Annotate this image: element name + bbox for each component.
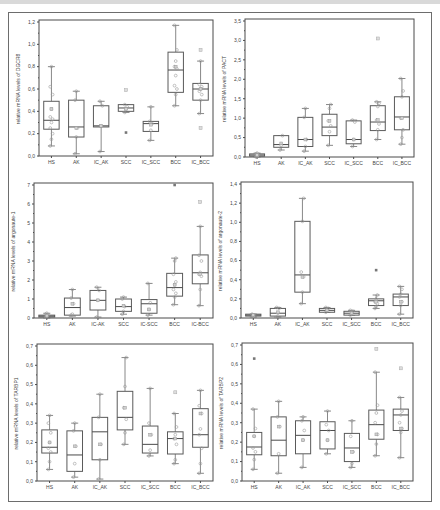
- y-tick-label: 0,6: [231, 361, 238, 367]
- x-category-label: HS: [251, 484, 259, 490]
- y-axis-label: relative mRNA levels of DGCR8: [15, 53, 21, 124]
- x-category-label: BCC: [373, 160, 384, 166]
- box-SCC: SCC: [320, 410, 335, 490]
- y-tick-label: 7: [27, 182, 30, 188]
- y-axis-label: relative mRNA levels of PACT: [221, 56, 227, 122]
- y-tick-label: 5: [27, 220, 30, 226]
- y-tick-label: 3,0: [234, 37, 241, 43]
- y-tick-label: 0,4: [231, 400, 238, 406]
- y-axis-label: relative mRNA levels of TARBP1: [13, 377, 19, 449]
- box-SCC: SCC: [319, 306, 334, 327]
- y-tick-label: 1,0: [234, 115, 241, 121]
- x-category-label: SCC: [121, 159, 132, 165]
- x-category-label: HS: [48, 159, 56, 165]
- y-tick-label: 0,7: [231, 342, 238, 348]
- x-category-label: IC_BCC: [191, 484, 210, 490]
- y-tick-label: 0,3: [231, 420, 238, 426]
- box-BCC: BCC: [168, 24, 183, 165]
- box-plot-figure: 0,00,20,40,60,81,01,2relative mRNA level…: [0, 0, 440, 510]
- panel-dgcr8: 0,00,20,40,60,81,01,2relative mRNA level…: [15, 19, 213, 165]
- x-category-label: IC_AK: [93, 484, 108, 490]
- y-tick-label: 0,4: [28, 108, 35, 114]
- y-tick-label: 0,0: [234, 154, 241, 160]
- y-tick-label: 0,5: [231, 381, 238, 387]
- x-category-label: BCC: [169, 321, 180, 327]
- y-tick-label: 0,0: [230, 315, 237, 321]
- box-BCC: BCC: [167, 391, 183, 490]
- box-IC_AK: IC_AK: [295, 415, 310, 490]
- box-IC_SCC: IC_SCC: [344, 119, 363, 166]
- y-tick-label: 4: [27, 239, 30, 245]
- panel-argonaute1: 01234567relative mRNA levels of argonaut…: [10, 182, 213, 327]
- x-category-label: IC_AK: [94, 159, 109, 165]
- x-category-label: SCC: [324, 160, 335, 166]
- box-IC-BCC: IC-BCC: [192, 201, 210, 327]
- x-category-label: BCC: [371, 321, 382, 327]
- y-tick-label: 1,2: [230, 200, 237, 206]
- box-IC_BCC: IC_BCC: [191, 48, 210, 165]
- box-AK: AK: [270, 306, 285, 327]
- box-HS: HS: [42, 414, 58, 490]
- x-category-label: BCC: [371, 484, 382, 490]
- x-category-label: AK: [69, 321, 76, 327]
- x-category-label: IC_BCC: [191, 159, 210, 165]
- panel-pact: 0,00,51,01,52,02,53,03,5relative mRNA le…: [221, 18, 414, 166]
- y-tick-label: 2: [27, 277, 30, 283]
- x-category-label: HS: [46, 484, 54, 490]
- box-AK: AK: [69, 90, 84, 165]
- box-IC_BCC: IC_BCC: [392, 285, 411, 327]
- x-category-label: SCC: [322, 484, 333, 490]
- x-category-label: IC_BCC: [393, 160, 412, 166]
- x-category-label: IC_SCC: [343, 484, 362, 490]
- y-tick-label: 0,2: [26, 439, 33, 445]
- x-category-label: HS: [250, 321, 258, 327]
- box-IC_AK: IC_AK: [295, 197, 311, 327]
- x-category-label: IC-BCC: [192, 321, 210, 327]
- x-category-label: BCC: [170, 484, 181, 490]
- box-SCC: SCC: [116, 296, 132, 327]
- box-BCC: BCC: [370, 37, 385, 166]
- box-IC_BCC: IC_BCC: [191, 389, 210, 490]
- y-tick-label: 0,2: [230, 296, 237, 302]
- panel-tarbp2: 0,00,10,20,30,40,50,60,7relative mRNA le…: [218, 342, 413, 490]
- box-SCC: SCC: [118, 89, 133, 165]
- y-tick-label: 1,4: [230, 181, 237, 187]
- box-IC_BCC: IC_BCC: [392, 367, 411, 490]
- y-tick-label: 0,2: [231, 439, 238, 445]
- y-tick-label: 3: [27, 258, 30, 264]
- box-HS: HS: [39, 312, 55, 327]
- x-category-label: IC_SCC: [141, 484, 160, 490]
- y-tick-label: 0,6: [26, 362, 33, 368]
- y-tick-label: 0,0: [26, 478, 33, 484]
- plot-area: [241, 182, 413, 318]
- x-category-label: IC_BCC: [392, 484, 411, 490]
- y-tick-label: 0,3: [26, 420, 33, 426]
- x-category-label: IC-SCC: [140, 321, 158, 327]
- x-category-label: IC_AK: [296, 484, 311, 490]
- box-HS: HS: [247, 357, 262, 490]
- box-SCC: SCC: [117, 356, 133, 490]
- y-tick-label: 0,1: [26, 459, 33, 465]
- x-category-label: IC_SCC: [142, 159, 161, 165]
- y-tick-label: 2,5: [234, 57, 241, 63]
- y-tick-label: 0,6: [230, 257, 237, 263]
- box-AK: AK: [271, 400, 286, 490]
- x-category-label: IC_AK: [298, 160, 313, 166]
- y-tick-label: 0,2: [28, 130, 35, 136]
- y-tick-label: 1,0: [28, 41, 35, 47]
- x-category-label: IC_SCC: [342, 321, 361, 327]
- box-IC_SCC: IC_SCC: [141, 387, 160, 490]
- y-tick-label: 0,0: [231, 478, 238, 484]
- box-IC_SCC: IC_SCC: [343, 419, 362, 490]
- y-tick-label: 0,0: [28, 153, 35, 159]
- box-HS: HS: [250, 152, 265, 166]
- y-tick-label: 0,8: [28, 63, 35, 69]
- x-category-label: IC_BCC: [392, 321, 411, 327]
- panel-argonaute2: 0,00,20,40,60,81,01,21,4relative mRNA le…: [217, 181, 413, 327]
- box-IC_AK: IC_AK: [93, 100, 109, 165]
- x-category-label: IC_AK: [295, 321, 310, 327]
- x-category-label: IC-AK: [91, 321, 105, 327]
- box-BCC: BCC: [167, 184, 183, 327]
- y-tick-label: 1,5: [234, 96, 241, 102]
- y-tick-label: 1,0: [230, 219, 237, 225]
